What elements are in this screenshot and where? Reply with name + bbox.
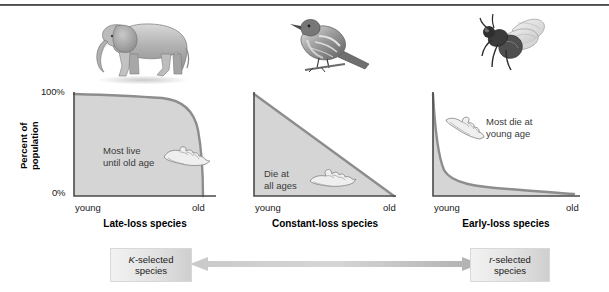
y-tick-0: 0% bbox=[52, 187, 65, 198]
late-loss-x-tick-young: young bbox=[75, 202, 101, 213]
early-loss-annotation: Most die at young age bbox=[486, 116, 532, 139]
early-loss-x-tick-old: old bbox=[566, 202, 579, 213]
late-loss-x-tick-old: old bbox=[192, 202, 205, 213]
constant-loss-annotation: Die at all ages bbox=[264, 168, 297, 191]
bird-illustration bbox=[285, 14, 373, 82]
elephant-illustration bbox=[83, 12, 201, 88]
top-divider-rule bbox=[0, 4, 609, 6]
constant-loss-x-tick-old: old bbox=[383, 202, 396, 213]
late-loss-title: Late-loss species bbox=[70, 218, 220, 229]
late-loss-annotation: Most live until old age bbox=[103, 145, 154, 168]
r-selected-label: r-selected species bbox=[489, 254, 531, 277]
pointing-hand-icon bbox=[444, 114, 490, 146]
panel-early-loss: Most die at young age young old Early-lo… bbox=[428, 90, 584, 200]
y-axis-label: Percent of population bbox=[18, 110, 42, 182]
early-loss-x-tick-young: young bbox=[434, 202, 460, 213]
fly-illustration bbox=[478, 10, 550, 80]
r-selected-rest: -selected species bbox=[492, 254, 531, 277]
pointing-hand-icon bbox=[162, 144, 212, 172]
constant-loss-x-tick-young: young bbox=[255, 202, 281, 213]
r-selected-species-box: r-selected species bbox=[470, 248, 550, 282]
k-selected-species-box: K-selected species bbox=[110, 248, 192, 282]
k-selected-rest: -selected species bbox=[135, 254, 174, 277]
constant-loss-title: Constant-loss species bbox=[242, 218, 408, 229]
k-selected-label: K-selected species bbox=[129, 254, 174, 277]
early-loss-title: Early-loss species bbox=[428, 218, 584, 229]
pointing-hand-icon bbox=[308, 164, 358, 192]
panel-constant-loss: Die at all ages young old Constant-loss … bbox=[250, 90, 400, 200]
k-to-r-gradient-arrow bbox=[190, 256, 480, 276]
y-tick-100: 100% bbox=[41, 86, 65, 97]
panel-late-loss: Most live until old age young old Late-l… bbox=[70, 90, 220, 200]
figure-root: Percent of population 100% 0% Most live … bbox=[0, 0, 609, 292]
